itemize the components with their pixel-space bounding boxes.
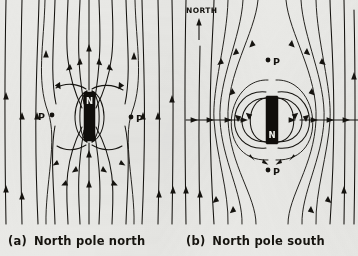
neutral-point-dot xyxy=(129,115,134,120)
caption-panel-a: (a)North pole north xyxy=(8,234,145,248)
neutral-point-label: P xyxy=(136,113,143,124)
panel-a-neutral-point-right: P xyxy=(129,113,143,124)
panel-b-pole-label: N xyxy=(268,130,275,140)
neutral-point-dot xyxy=(266,168,271,173)
neutral-point-dot xyxy=(266,58,271,63)
north-label: NORTH xyxy=(186,6,217,15)
neutral-point-label: P xyxy=(38,111,45,122)
caption-a-tag: (a) xyxy=(8,234,27,248)
panel-a-neutral-point-left: P xyxy=(38,111,54,122)
caption-b-tag: (b) xyxy=(186,234,205,248)
panel-b-neutral-point-top: P xyxy=(266,56,280,67)
caption-a-text: North pole north xyxy=(34,234,145,248)
panel-b-magnet: N xyxy=(266,96,278,144)
caption-b-text: North pole south xyxy=(212,234,325,248)
neutral-point-label: P xyxy=(273,166,280,177)
neutral-point-label: P xyxy=(273,56,280,67)
neutral-point-dot xyxy=(50,113,55,118)
north-arrow-head xyxy=(196,18,201,26)
panel-a-magnet: N xyxy=(84,92,95,141)
panel-b-neutral-point-bottom: P xyxy=(266,166,280,177)
field-diagram-svg: N P P xyxy=(0,0,358,256)
magnetic-field-figure: N P P xyxy=(0,0,358,256)
panel-a-pole-label: N xyxy=(86,96,93,106)
caption-panel-b: (b)North pole south xyxy=(186,234,325,248)
